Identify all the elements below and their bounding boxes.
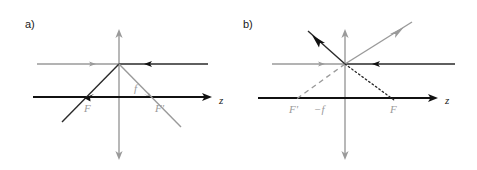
- panel-b-incoming-ray-gray: [272, 61, 345, 66]
- panel-a-z-axis: [33, 93, 212, 101]
- panel-b-vertical-axis: [341, 29, 348, 160]
- figure-canvas: a) z F F' f: [0, 0, 477, 170]
- panel-a-focal-point-F-label: F: [83, 102, 91, 114]
- panel-a-refracted-ray-gray: [119, 64, 181, 127]
- panel-b-z-axis: [258, 94, 438, 102]
- panel-b-virtual-extension-dotted: [345, 64, 394, 100]
- panel-a-incoming-ray-black: [119, 61, 208, 67]
- panel-b-focal-length-label: −f: [314, 103, 326, 115]
- panel-a-label: a): [25, 18, 35, 30]
- panel-a-incoming-ray-gray: [37, 61, 119, 66]
- panel-a-focal-point-F-prime-label: F': [154, 102, 165, 114]
- panel-b-focal-point-F-prime-label: F': [288, 103, 299, 115]
- panel-b-label: b): [243, 18, 253, 30]
- optics-ray-diagram-figure: a) z F F' f: [0, 0, 477, 170]
- panel-a-z-label: z: [218, 94, 224, 106]
- panel-b-virtual-extension-dashed: [295, 64, 345, 100]
- panel-b-z-label: z: [444, 94, 450, 106]
- panel-b-focal-point-F-label: F: [389, 103, 397, 115]
- panel-a-vertical-axis: [115, 29, 122, 160]
- panel-a: a) z F F' f: [25, 18, 224, 160]
- panel-b-incoming-ray-black: [345, 61, 455, 67]
- panel-b-refracted-ray-gray: [345, 22, 412, 64]
- panel-b-refracted-ray-black: [308, 31, 345, 64]
- panel-b: b) z F' F −f: [243, 18, 455, 160]
